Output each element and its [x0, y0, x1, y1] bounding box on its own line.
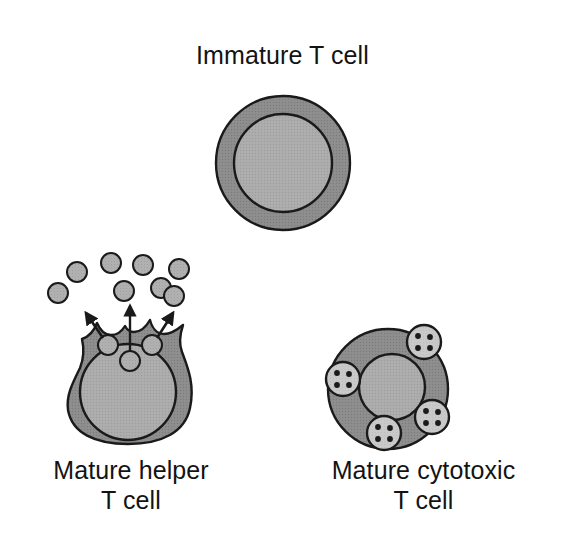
granule [415, 400, 449, 434]
immature-cell-nucleus [234, 114, 332, 212]
label-mature-helper-t-cell: Mature helper T cell [0, 455, 262, 515]
mature-helper-t-cell [48, 253, 192, 444]
label-mature-cytotoxic-t-cell: Mature cytotoxic T cell [282, 455, 565, 515]
cytotoxic-cell-nucleus [359, 354, 425, 420]
secreted-particle [48, 283, 68, 303]
vesicle [142, 335, 162, 355]
title-immature-t-cell: Immature T cell [0, 40, 565, 70]
vesicle [98, 335, 118, 355]
granule [407, 325, 441, 359]
vesicle [120, 351, 140, 371]
secreted-particle [169, 259, 189, 279]
granule [326, 362, 360, 396]
granule [367, 416, 401, 450]
secreted-particle [114, 281, 134, 301]
secreted-particle [164, 286, 184, 306]
secreted-particle [133, 255, 153, 275]
secreted-particle [101, 253, 121, 273]
secreted-particle [67, 262, 87, 282]
helper-cell-secreted-particles [48, 253, 189, 306]
immature-t-cell [216, 96, 350, 230]
t-cell-diagram: Immature T cell Mature helper T cell Mat… [0, 0, 565, 558]
mature-cytotoxic-t-cell [326, 325, 449, 450]
